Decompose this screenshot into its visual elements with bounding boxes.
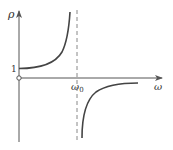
curve-left-branch (19, 12, 70, 69)
x-tick-label-base: ω (71, 81, 79, 92)
x-tick-label-sub: 0 (79, 86, 83, 94)
y-tick-label: 1 (11, 64, 17, 74)
y-axis-label: ρ (7, 8, 15, 21)
x-tick-label: ω0 (71, 81, 84, 94)
curve-right-branch (82, 83, 138, 138)
origin-marker (17, 76, 21, 80)
dispersion-diagram: ρ 1 ω0 ω (0, 0, 173, 150)
x-axis-label: ω (154, 81, 162, 92)
